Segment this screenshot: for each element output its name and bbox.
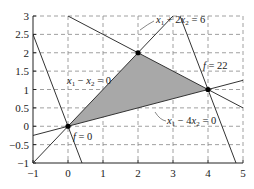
y-tick-label: 2.5 [15,28,29,40]
svg-text:x1 − x2 = 0: x1 − x2 = 0 [66,75,111,88]
x-tick-label: 1 [100,167,106,179]
x-tick-label: 4 [205,167,211,179]
annotation-eq2: x1 − x2 = 0 [66,75,111,88]
vertex-point [205,87,210,92]
constraint-line [33,34,82,163]
vertex-point [135,50,140,55]
y-tick-label: −0.5 [9,139,29,151]
x-tick-label: 2 [135,167,141,179]
annotation-eq3: x1 − 4x2 = 0 [155,112,216,128]
y-tick-label: 1 [24,84,30,96]
y-tick-label: 0 [24,120,30,132]
annotation-eq1: x1 + 2x2 = 6 [140,14,205,30]
annotation-f0: f = 0 [73,131,92,142]
svg-text:f = 0: f = 0 [73,131,92,142]
x-tick-label: 5 [240,167,246,179]
svg-text:f = 22: f = 22 [203,60,228,71]
annotation-f22: f = 22 [203,60,228,71]
x-tick-label: 0 [65,167,71,179]
lp-feasible-region-chart: −1012345−1−0.500.511.522.53 x1 + 2x2 = 6… [0,0,254,189]
y-tick-label: 1.5 [15,65,29,77]
y-tick-label: 3 [24,10,30,22]
y-tick-label: −1 [17,157,29,169]
y-tick-label: 2 [24,47,30,59]
y-tick-label: 0.5 [15,102,29,114]
x-tick-label: 3 [170,167,176,179]
vertex-point [65,124,70,129]
